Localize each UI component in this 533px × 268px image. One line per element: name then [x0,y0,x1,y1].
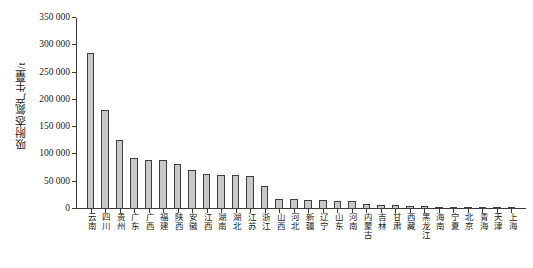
bar[interactable] [130,158,138,209]
x-tick-label: 河北 [289,213,298,231]
bar[interactable] [203,174,211,209]
bar[interactable] [334,201,342,209]
y-tick-label: 300 000 [39,41,70,51]
x-tick-label: 云南 [86,213,95,231]
bar[interactable] [145,160,153,209]
x-tick-label: 江西 [202,213,211,231]
bar[interactable] [261,186,269,209]
x-tick-label: 黑龙江 [420,213,429,240]
bar[interactable] [174,164,182,209]
x-axis-tick-labels: 云南四川贵州广东广西福建陕西安徽江西湖南湖北江苏浙江山西河北新疆辽宁山东河南内蒙… [76,211,526,268]
y-tick-label: 100 000 [39,150,70,160]
x-tick-label: 浙江 [260,213,269,231]
bar[interactable] [246,176,254,209]
x-tick-label: 北京 [464,213,473,231]
y-tick-label: 0 [65,204,70,214]
bar[interactable] [217,175,225,209]
bar[interactable] [319,200,327,209]
x-tick-label: 青海 [478,213,487,231]
x-tick-label: 甘肃 [391,213,400,231]
y-tick-label: 250 000 [39,68,70,78]
y-axis-tick-labels: 050 000100 000150 000200 000250 000300 0… [30,0,74,212]
x-tick-label: 吉林 [377,213,386,231]
y-tick-mark [72,99,76,100]
bar[interactable] [275,199,283,209]
x-tick-label: 江苏 [246,213,255,231]
x-tick-label: 宁夏 [449,213,458,231]
bar[interactable] [87,53,95,209]
x-tick-label: 西藏 [406,213,415,231]
bar[interactable] [348,201,356,209]
bar[interactable] [232,175,240,209]
bar[interactable] [188,170,196,209]
x-tick-label: 广东 [130,213,139,231]
y-tick-mark [72,44,76,45]
x-tick-label: 贵州 [115,213,124,231]
plot-area [76,18,526,209]
x-tick-label: 四川 [101,213,110,231]
bar[interactable] [304,200,312,209]
bars-layer [76,18,526,209]
bar[interactable] [290,199,298,209]
x-tick-label: 内蒙古 [362,213,371,240]
bar[interactable] [101,110,109,209]
x-tick-label: 广西 [144,213,153,231]
y-tick-mark [72,72,76,73]
x-tick-label: 安徽 [188,213,197,231]
y-tick-mark [72,153,76,154]
x-tick-label: 辽宁 [318,213,327,231]
x-tick-label: 山东 [333,213,342,231]
y-tick-label: 50 000 [44,177,70,187]
x-tick-label: 湖南 [217,213,226,231]
y-tick-mark [72,126,76,127]
y-axis-title-text: 吸附态氮产生量/t [16,62,27,150]
x-tick-label: 河南 [347,213,356,231]
y-tick-label: 200 000 [39,95,70,105]
x-tick-label: 山西 [275,213,284,231]
y-tick-label: 350 000 [39,13,70,23]
x-tick-label: 湖北 [231,213,240,231]
bar[interactable] [159,160,167,209]
y-tick-mark [72,181,76,182]
y-tick-mark [72,208,76,209]
x-tick-label: 海南 [435,213,444,231]
bar-chart: 吸附态氮产生量/t 050 000100 000150 000200 00025… [0,0,533,268]
x-tick-label: 新疆 [304,213,313,231]
bar[interactable] [116,140,124,209]
y-tick-mark [72,17,76,18]
x-tick-label: 上海 [507,213,516,231]
y-tick-label: 150 000 [39,122,70,132]
x-tick-label: 陕西 [173,213,182,231]
x-tick-label: 福建 [159,213,168,231]
x-tick-label: 天津 [493,213,502,231]
